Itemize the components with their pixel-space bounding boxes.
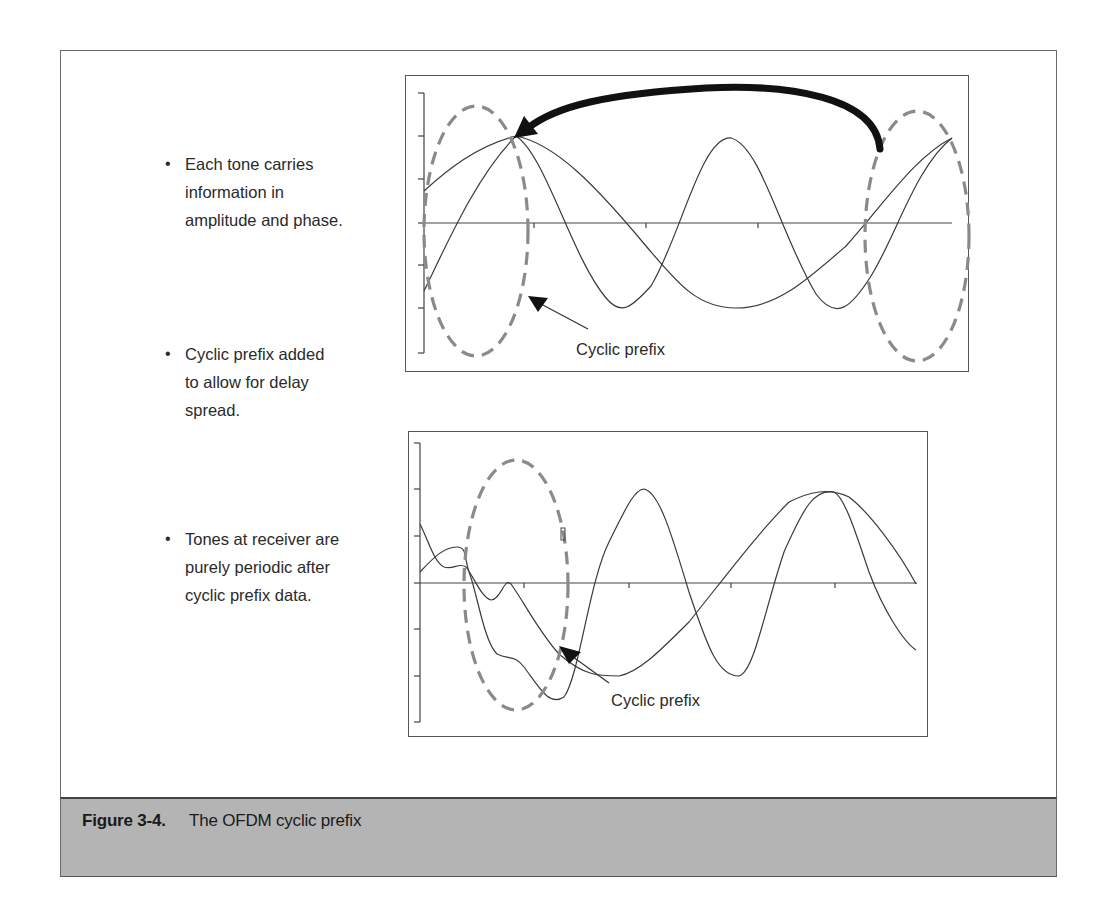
received-tone-1-curve — [420, 489, 916, 700]
x-axis — [424, 223, 952, 228]
bullet-line: information in — [185, 178, 395, 206]
figure-title: The OFDM cyclic prefix — [189, 811, 361, 831]
bullet-line: Cyclic prefix added — [185, 340, 395, 368]
cyclic-prefix-label: Cyclic prefix — [576, 340, 665, 359]
bullet-line: Tones at receiver are — [185, 525, 395, 553]
cyclic-prefix-ellipse — [464, 460, 568, 710]
figure-number: Figure 3-4. — [82, 811, 166, 831]
received-tone-2-curve — [420, 492, 916, 676]
top-chart-plot — [406, 76, 970, 373]
bottom-chart: Cyclic prefix — [408, 431, 928, 737]
bullet-line: purely periodic after — [185, 553, 395, 581]
cyclic-prefix-ellipse-start — [424, 106, 528, 356]
tone-2-curve — [424, 136, 952, 309]
copy-arrow — [528, 87, 880, 149]
bullet-glyph: • — [165, 525, 171, 553]
bullet-glyph: • — [165, 340, 171, 368]
bullet-line: Each tone carries — [185, 150, 395, 178]
cyclic-prefix-label: Cyclic prefix — [611, 691, 700, 710]
x-axis — [420, 583, 917, 588]
tone-1-curve — [424, 136, 952, 308]
figure-caption: Figure 3-4. The OFDM cyclic prefix — [60, 797, 1057, 877]
top-chart: Cyclic prefix — [405, 75, 969, 372]
bullet-line: to allow for delay — [185, 368, 395, 396]
bullet-line: spread. — [185, 396, 395, 424]
bullet-line: cyclic prefix data. — [185, 581, 395, 609]
annotation-arrow-head — [528, 296, 548, 312]
annotation-arrow-head — [559, 646, 581, 664]
bullet-glyph: • — [165, 150, 171, 178]
bullet-line: amplitude and phase. — [185, 206, 395, 234]
y-axis — [414, 443, 420, 722]
